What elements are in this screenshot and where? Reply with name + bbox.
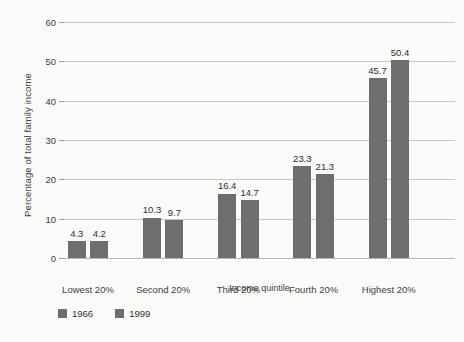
y-tick-mark: [59, 140, 64, 141]
legend-label: 1999: [129, 308, 150, 319]
y-tick-label: 40: [45, 95, 56, 106]
bar: [293, 166, 311, 258]
x-axis-title: Income quintile: [64, 283, 455, 293]
bar-value-label: 10.3: [143, 204, 162, 215]
y-tick-label: 50: [45, 56, 56, 67]
bar: [143, 218, 161, 259]
bar: [218, 194, 236, 259]
bar-value-label: 14.7: [240, 187, 259, 198]
bar: [165, 220, 183, 258]
y-tick-mark: [59, 179, 64, 180]
plot-area: 01020304050604.34.2Lowest 20%10.39.7Seco…: [64, 22, 455, 258]
y-tick-label: 10: [45, 213, 56, 224]
bar: [241, 200, 259, 258]
y-tick-mark: [59, 219, 64, 220]
y-tick-mark: [59, 61, 64, 62]
bar-value-label: 4.2: [93, 228, 106, 239]
y-tick-mark: [59, 22, 64, 23]
bar: [391, 60, 409, 258]
bar-value-label: 16.4: [218, 180, 237, 191]
bar-value-label: 23.3: [293, 153, 312, 164]
legend-swatch: [115, 309, 124, 318]
bar-value-label: 50.4: [391, 47, 410, 58]
bar-chart-figure: Percentage of total family income 010203…: [0, 0, 464, 342]
legend-item: 1999: [115, 308, 150, 319]
y-tick-label: 0: [51, 253, 56, 264]
bar: [369, 78, 387, 258]
y-tick-mark: [59, 258, 64, 259]
y-tick-label: 60: [45, 17, 56, 28]
axis-baseline: [64, 258, 455, 259]
bar-value-label: 4.3: [70, 228, 83, 239]
y-tick-label: 30: [45, 135, 56, 146]
chart-legend: 19661999: [58, 308, 150, 319]
bar-value-label: 21.3: [316, 161, 335, 172]
y-axis-title: Percentage of total family income: [22, 15, 38, 275]
legend-swatch: [58, 309, 67, 318]
bar-value-label: 9.7: [168, 207, 181, 218]
y-tick-mark: [59, 101, 64, 102]
bar-value-label: 45.7: [368, 65, 387, 76]
legend-label: 1966: [72, 308, 93, 319]
y-tick-label: 20: [45, 174, 56, 185]
gridline: [64, 22, 455, 23]
bar: [68, 241, 86, 258]
bar: [90, 241, 108, 258]
legend-item: 1966: [58, 308, 93, 319]
bar: [316, 174, 334, 258]
